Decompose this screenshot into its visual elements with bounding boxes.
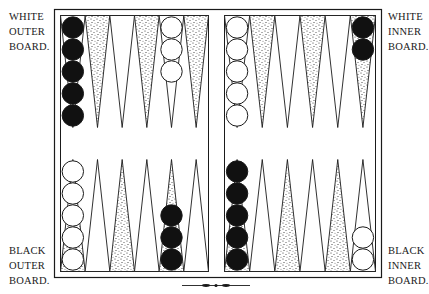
point-top-right-3[interactable] (275, 16, 300, 128)
point-bottom-right-5[interactable] (325, 160, 350, 272)
point-top-right-2[interactable] (250, 16, 275, 128)
white-checker[interactable] (62, 227, 83, 248)
black-checker[interactable] (161, 205, 182, 226)
white-checker[interactable] (226, 83, 247, 104)
point-top-right-5[interactable] (325, 16, 350, 128)
white-checker[interactable] (352, 227, 373, 248)
black-checker[interactable] (226, 183, 247, 204)
black-checker[interactable] (62, 105, 83, 126)
black-checker[interactable] (226, 205, 247, 226)
point-bottom-right-2[interactable] (250, 160, 275, 272)
point-top-right-4[interactable] (300, 16, 325, 128)
white-checker[interactable] (161, 39, 182, 60)
white-checker[interactable] (226, 17, 247, 38)
white-checker[interactable] (226, 61, 247, 82)
point-bottom-left-4[interactable] (135, 160, 160, 272)
point-bottom-right-3[interactable] (275, 160, 300, 272)
black-checker[interactable] (226, 249, 247, 270)
black-checker[interactable] (352, 17, 373, 38)
white-checker[interactable] (352, 249, 373, 270)
point-bottom-right-4[interactable] (300, 160, 325, 272)
white-checker[interactable] (62, 249, 83, 270)
white-checker[interactable] (161, 61, 182, 82)
white-checker[interactable] (226, 39, 247, 60)
ornament-divider (182, 284, 250, 287)
point-bottom-left-3[interactable] (110, 160, 135, 272)
point-top-left-6[interactable] (184, 16, 209, 128)
black-checker[interactable] (62, 83, 83, 104)
black-checker[interactable] (226, 161, 247, 182)
point-bottom-left-2[interactable] (85, 160, 110, 272)
point-bottom-left-6[interactable] (184, 160, 209, 272)
white-checker[interactable] (161, 17, 182, 38)
white-checker[interactable] (62, 161, 83, 182)
black-checker[interactable] (226, 227, 247, 248)
black-checker[interactable] (161, 249, 182, 270)
points-layer (61, 16, 376, 272)
white-checker[interactable] (226, 105, 247, 126)
point-top-left-4[interactable] (135, 16, 160, 128)
black-checker[interactable] (62, 39, 83, 60)
white-checker[interactable] (62, 205, 83, 226)
point-top-left-3[interactable] (110, 16, 135, 128)
black-checker[interactable] (62, 61, 83, 82)
point-top-left-2[interactable] (85, 16, 110, 128)
checkers-layer (62, 17, 373, 270)
black-checker[interactable] (352, 39, 373, 60)
black-checker[interactable] (62, 17, 83, 38)
black-checker[interactable] (161, 227, 182, 248)
white-checker[interactable] (62, 183, 83, 204)
